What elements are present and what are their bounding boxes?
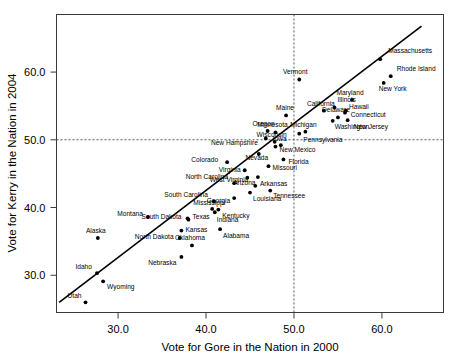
data-point-label: Oregon	[253, 120, 275, 128]
data-point-marker	[243, 168, 247, 172]
data-point-label: Vermont	[283, 68, 308, 75]
y-axis-title: Vote for Kerry in the Nation in 2004	[6, 73, 18, 253]
data-point-label: Mississippi	[193, 199, 225, 207]
data-point-marker	[267, 164, 271, 168]
data-point-marker	[186, 216, 190, 220]
data-point-marker	[190, 244, 194, 248]
data-point-label: Pennsylvania	[303, 136, 343, 144]
data-point-marker	[101, 279, 105, 283]
data-point-marker	[274, 145, 278, 149]
data-point-marker	[178, 236, 182, 240]
data-point-marker	[264, 137, 268, 141]
data-point: Nevada	[245, 152, 268, 161]
data-point-label: Delaware	[322, 106, 350, 113]
data-point-label: Texas	[192, 213, 210, 220]
data-point-marker	[84, 300, 88, 304]
data-point-label: Illinois	[337, 96, 356, 103]
data-point-marker	[210, 207, 214, 211]
data-point-marker	[95, 271, 99, 275]
data-point-label: Massachusetts	[388, 47, 433, 54]
data-point-label: Wyoming	[107, 283, 135, 291]
data-point-label: New Mexico	[280, 146, 316, 153]
data-point-marker	[179, 229, 183, 233]
x-tick-label: 30.0	[107, 323, 128, 335]
data-point-marker	[225, 160, 229, 164]
data-point-marker	[232, 181, 236, 185]
y-tick-label: 50.0	[24, 134, 45, 146]
data-point-marker	[378, 57, 382, 61]
data-point-label: Hawaii	[349, 103, 369, 110]
data-point-marker	[218, 227, 222, 231]
data-point-label: Louisiana	[253, 195, 282, 202]
data-point-label: North Carolina	[186, 173, 229, 180]
data-point-marker	[297, 78, 301, 82]
data-point: Connecticut	[344, 109, 386, 118]
data-point-label: Kansas	[185, 226, 208, 233]
data-point-label: Nebraska	[148, 259, 177, 266]
data-point-label: Idaho	[75, 263, 92, 270]
data-point-label: Michigan	[290, 121, 317, 129]
data-point-marker	[253, 184, 257, 188]
data-point-marker	[268, 189, 272, 193]
data-point-label: Montana	[117, 210, 143, 217]
data-point-label: California	[307, 100, 335, 107]
y-tick-label: 40.0	[24, 202, 45, 214]
plot-canvas: 30.040.050.060.0 30.040.050.060.0 Massac…	[0, 0, 474, 363]
data-point-marker	[297, 132, 301, 136]
data-point-label: Nevada	[245, 154, 268, 161]
data-point-label: Alaska	[86, 227, 106, 234]
data-point-marker	[248, 191, 252, 195]
data-point-marker	[346, 118, 350, 122]
data-point-label: Arkansas	[260, 180, 288, 187]
data-point-label: Florida	[288, 158, 308, 165]
y-tick-label: 30.0	[24, 269, 45, 281]
data-point-label: New York	[379, 85, 408, 92]
data-point-label: Utah	[68, 292, 82, 299]
data-point-label: New Hampshire	[211, 139, 258, 147]
data-point-marker	[322, 109, 326, 113]
data-point-marker	[146, 215, 150, 219]
data-point-label: Connecticut	[351, 111, 386, 118]
data-point-marker	[216, 208, 220, 212]
data-point-marker	[179, 255, 183, 259]
data-point-marker	[96, 236, 100, 240]
data-point-marker	[282, 158, 286, 162]
x-axis-title: Vote for Gore in the Nation in 2000	[161, 341, 338, 353]
data-point-marker	[336, 116, 340, 120]
data-point-label: North Dakota	[135, 233, 174, 240]
x-tick-label: 60.0	[371, 323, 392, 335]
data-point-marker	[232, 196, 236, 200]
data-point-label: Rhode Island	[397, 65, 436, 72]
data-point-marker	[284, 114, 288, 118]
data-point-marker	[213, 210, 217, 214]
x-tick-label: 40.0	[195, 323, 216, 335]
data-point-label: Washington	[335, 123, 370, 131]
scatter-plot-figure: 30.040.050.060.0 30.040.050.060.0 Massac…	[0, 0, 474, 363]
data-point-marker	[304, 130, 308, 134]
x-tick-label: 50.0	[283, 323, 304, 335]
data-point-label: Indiana	[217, 216, 239, 223]
data-point-marker	[389, 74, 393, 78]
data-point-label: Alabama	[223, 232, 249, 239]
data-point-label: Iowa	[273, 135, 287, 142]
data-point: New Mexico	[274, 145, 316, 153]
data-point-label: Maine	[276, 104, 294, 111]
data-point-label: Colorado	[191, 156, 218, 163]
data-point-marker	[256, 175, 260, 179]
y-tick-label: 60.0	[24, 66, 45, 78]
data-point-label: South Carolina	[164, 191, 208, 198]
